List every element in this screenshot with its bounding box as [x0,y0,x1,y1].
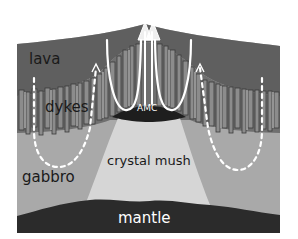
label-mantle: mantle [118,209,171,227]
label-gabbro: gabbro [22,168,75,186]
central-upflow-arrows [138,22,160,40]
oceanic-crust-diagram: lava dykes AMC gabbro crystal mush mantl… [0,0,298,239]
label-amc: AMC [137,103,157,113]
label-dykes: dykes [45,98,89,116]
label-lava: lava [29,50,60,68]
label-crystal-mush: crystal mush [107,153,191,168]
